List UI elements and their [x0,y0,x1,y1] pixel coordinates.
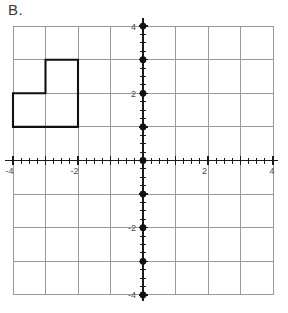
data-point [140,258,147,265]
data-point [140,124,147,131]
y-tick-label: 4 [131,22,136,32]
x-tick-label: 4 [269,166,274,176]
data-point [140,157,147,164]
y-tick-label: -2 [128,223,136,233]
x-tick-label: 2 [202,166,207,176]
y-tick-label: -4 [128,290,136,300]
data-point [140,90,147,97]
y-tick-label: 2 [131,89,136,99]
coordinate-plane: -4-224-4-224 [0,0,288,313]
data-point [140,23,147,30]
data-point [140,224,147,231]
data-point [140,292,147,299]
data-point [140,56,147,63]
x-tick-label: -4 [5,166,13,176]
data-point [140,191,147,198]
graph-figure: B. -4-224-4-224 [0,0,288,313]
x-tick-label: -2 [70,166,78,176]
